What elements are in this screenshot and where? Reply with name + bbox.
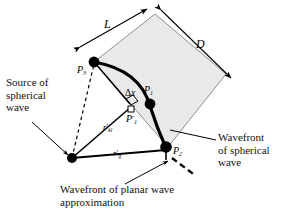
point-P3-marker — [89, 57, 100, 68]
point-label-P1prime-subscript: 1 — [134, 118, 137, 125]
r-kl-subscript: kl — [108, 127, 112, 133]
wavefront-diagram-figure: L D P3 P1 P′1 P2 Δx r′kl r′ij Source of … — [0, 0, 285, 214]
point-label-P3: P3 — [77, 64, 86, 76]
point-source-marker — [67, 153, 77, 163]
point-P1-marker — [145, 99, 156, 110]
distance-label-r-ij-prime: r′ij — [113, 148, 121, 159]
point-label-P2-subscript: 2 — [179, 150, 182, 157]
annotation-wavefront-of-spherical-wave: Wavefront of spherical wave — [218, 131, 284, 169]
aperture-square — [94, 14, 226, 147]
annotation-source-of-spherical-wave: Source of spherical wave — [6, 76, 76, 114]
point-label-P3-subscript: 3 — [83, 69, 86, 76]
delta-variable: x — [131, 88, 135, 98]
point-P2-marker — [160, 141, 172, 153]
leader-source-annotation — [32, 122, 68, 155]
point-label-P1-prime: P′1 — [126, 113, 137, 125]
leader-planar-wavefront-annotation — [125, 161, 168, 184]
point-P1prime-marker — [128, 106, 134, 112]
point-label-P1: P1 — [144, 84, 153, 96]
delta-x-label: Δx — [125, 88, 135, 98]
annotation-wavefront-of-planar-wave: Wavefront of planar wave approximation — [60, 183, 220, 208]
dimension-label-D: D — [196, 37, 205, 52]
point-label-P1-subscript: 1 — [150, 89, 153, 96]
dimension-label-L: L — [104, 17, 111, 32]
ray-source-to-P1prime — [72, 107, 131, 158]
r-ij-subscript: ij — [118, 153, 121, 159]
point-label-P2: P2 — [173, 145, 182, 157]
distance-label-r-kl-prime: r′kl — [103, 122, 112, 133]
